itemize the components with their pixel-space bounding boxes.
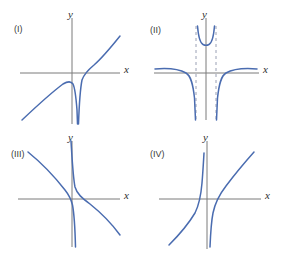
four-graph-figure: (I) y x (II) y x <box>0 0 283 254</box>
y-axis-label-IV: y <box>203 131 208 143</box>
x-axis-label-III: x <box>124 189 129 201</box>
graph-panel-I: (I) y x <box>0 0 142 127</box>
x-axis-label-I: x <box>124 63 129 75</box>
panel-label-IV: (IV) <box>150 149 165 159</box>
curve-right-branch <box>79 36 121 124</box>
y-axis-label-III: y <box>68 131 73 143</box>
graph-panel-III: (III) y x <box>0 127 142 254</box>
panel-label-I: (I) <box>14 24 23 34</box>
curve-right-branch <box>71 141 120 235</box>
curve-left-branch <box>22 82 78 124</box>
curve-far-left-branch <box>155 69 196 120</box>
panel-label-III: (III) <box>11 149 25 159</box>
x-axis-label-IV: x <box>265 189 270 201</box>
y-axis-label-II: y <box>202 8 207 20</box>
graph-panel-IV: (IV) y x <box>141 127 283 254</box>
graph-panel-IV-plot <box>141 127 283 254</box>
axes-group-IV <box>159 141 261 249</box>
graph-panel-II: (II) y x <box>141 0 283 127</box>
y-axis-label-I: y <box>68 8 73 20</box>
panel-label-II: (II) <box>150 25 161 35</box>
x-axis-label-II: x <box>263 63 268 75</box>
curve-far-right-branch <box>217 69 258 120</box>
graph-panel-II-plot <box>141 0 283 127</box>
graph-panel-III-plot <box>0 127 142 254</box>
